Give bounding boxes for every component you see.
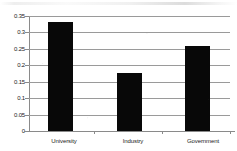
bar-chart-figure: 0.35 0.3 0.25 0.2 0.15 0.1 0.05 0 Univer… — [0, 0, 237, 151]
bar-university[interactable] — [48, 22, 73, 131]
x-tick-label-university: University — [36, 137, 92, 145]
y-tick-label-0.1: 0.1 — [1, 95, 25, 102]
x-tick-label-industry: Industry — [105, 137, 161, 145]
x-axis-line — [24, 131, 235, 132]
x-tick-mark-3 — [230, 131, 231, 134]
y-tick-label-0.25: 0.25 — [1, 46, 25, 53]
x-tick-mark-1 — [94, 131, 95, 134]
scan-artifact-top-edge — [0, 2, 237, 5]
bar-government[interactable] — [185, 46, 210, 131]
y-tick-label-0.3: 0.3 — [1, 29, 25, 36]
y-tick-label-0.15: 0.15 — [1, 79, 25, 86]
x-tick-label-government: Government — [172, 137, 234, 145]
bar-industry[interactable] — [117, 73, 142, 131]
y-axis-tick-labels: 0.35 0.3 0.25 0.2 0.15 0.1 0.05 0 — [0, 0, 25, 151]
gridline-0.35 — [29, 16, 230, 17]
y-tick-label-0.35: 0.35 — [1, 13, 25, 20]
y-tick-label-0: 0 — [1, 128, 25, 135]
x-tick-mark-2 — [162, 131, 163, 134]
y-tick-label-0.05: 0.05 — [1, 112, 25, 119]
y-tick-label-0.2: 0.2 — [1, 62, 25, 69]
plot-area — [29, 16, 230, 131]
